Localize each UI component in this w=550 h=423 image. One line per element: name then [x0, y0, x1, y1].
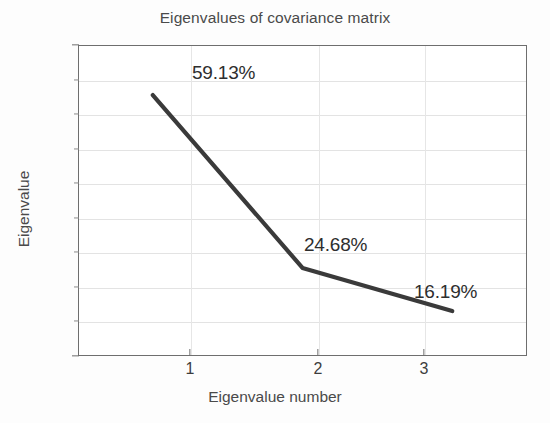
y-tick-mark — [74, 321, 79, 322]
y-tick-mark — [74, 252, 79, 253]
x-tick-mark — [189, 349, 190, 356]
gridline-horizontal — [79, 150, 526, 151]
x-tick-mark — [317, 349, 318, 356]
x-tick-label: 2 — [314, 360, 323, 378]
y-tick-mark — [74, 217, 79, 218]
gridline-vertical — [319, 46, 320, 355]
y-tick-mark — [72, 44, 79, 45]
gridline-horizontal — [79, 219, 526, 220]
y-tick-mark — [72, 355, 79, 356]
y-axis-label: Eigenvalue — [15, 149, 33, 269]
y-tick-mark — [74, 114, 79, 115]
chart-title: Eigenvalues of covariance matrix — [0, 9, 550, 27]
x-axis-label: Eigenvalue number — [0, 388, 550, 406]
x-tick-label: 3 — [420, 360, 429, 378]
y-tick-mark — [74, 79, 79, 80]
gridline-horizontal — [79, 253, 526, 254]
x-tick-label: 1 — [186, 360, 195, 378]
gridline-vertical — [191, 46, 192, 355]
y-tick-mark — [74, 286, 79, 287]
gridline-vertical — [425, 46, 426, 355]
point-label-2: 24.68% — [304, 234, 367, 256]
y-tick-mark — [74, 148, 79, 149]
point-label-1: 59.13% — [192, 62, 255, 84]
gridline-horizontal — [79, 81, 526, 82]
plot-area — [78, 45, 527, 356]
gridline-horizontal — [79, 115, 526, 116]
y-tick-mark — [74, 183, 79, 184]
point-label-3: 16.19% — [414, 281, 477, 303]
gridline-horizontal — [79, 322, 526, 323]
gridline-horizontal — [79, 184, 526, 185]
x-tick-mark — [423, 349, 424, 356]
chart-figure: Eigenvalues of covariance matrix 2.0 1.8… — [0, 0, 550, 423]
